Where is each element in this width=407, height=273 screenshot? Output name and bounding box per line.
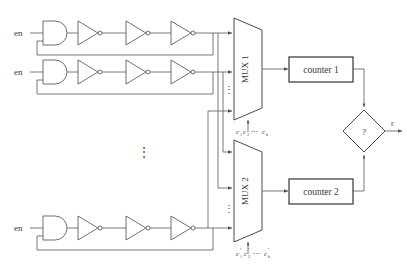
inverter-1-3 [171, 21, 191, 45]
mux1-sel-ck-sub: k [266, 132, 269, 137]
inverter-3-3 [171, 216, 191, 240]
ring-oscillator-1 [30, 21, 232, 188]
mux1-sel-dots-icon: ⋯ [251, 128, 258, 136]
inverter-bubble-1-1 [98, 31, 102, 35]
inverter-2-2 [126, 60, 146, 84]
inverter-bubble-3-1 [98, 226, 102, 230]
en-label-2: en [14, 67, 23, 77]
inverter-bubble-2-1 [98, 70, 102, 74]
mux-2-select-label: c 1 ′ c 2 ′ ⋯ c k ′ [236, 247, 271, 259]
inverter-bubble-3-3 [191, 226, 195, 230]
inverter-3-2 [126, 216, 146, 240]
en-label-1: en [14, 28, 23, 38]
comparator-output-label: r [391, 119, 394, 128]
counter-1-label: counter 1 [303, 65, 339, 75]
mux1-sel-c1-sub: 1 [240, 132, 242, 137]
oscillator-rows-ellipsis-icon: ⋮ [138, 145, 150, 159]
ring-oscillator-2 [30, 60, 232, 152]
mux-1-select-label: c 1 c 2 ⋯ c k [236, 128, 269, 137]
inverter-2-1 [78, 60, 98, 84]
mux1-sel-c2-sub: 2 [247, 132, 249, 137]
inverter-2-3 [171, 60, 191, 84]
inverter-1-2 [126, 21, 146, 45]
mux2-sel-ck-prime: ′ [268, 247, 270, 253]
mux2-sel-dots-icon: ⋯ [253, 250, 260, 258]
ring-oscillator-3 [30, 111, 232, 250]
inverter-bubble-2-3 [191, 70, 195, 74]
comparator-label: ? [362, 127, 366, 137]
inverter-bubble-2-2 [146, 70, 150, 74]
mux2-sel-ck-sub: k [268, 254, 271, 259]
mux2-sel-c1-prime: ′ [240, 247, 242, 253]
mux2-sel-c2-prime: ′ [248, 247, 250, 253]
inverter-1-1 [78, 21, 98, 45]
inverter-bubble-1-2 [146, 31, 150, 35]
mux1-inputs-ellipsis-icon: ⋮ [224, 84, 234, 95]
mux-1-label: MUX 1 [240, 55, 250, 83]
and-gate-1 [43, 21, 67, 45]
inverter-bubble-1-3 [191, 31, 195, 35]
counter-2-label: counter 2 [303, 187, 339, 197]
mux-2-label: MUX 2 [240, 177, 250, 205]
mux2-sel-c2-sub: 2 [248, 254, 250, 259]
mux2-sel-c1-sub: 1 [240, 254, 242, 259]
en-label-3: en [14, 223, 23, 233]
schematic-canvas: en en en ⋮ MUX 1 MUX 2 ⋮ ⋮ c 1 c 2 ⋯ c k… [0, 0, 407, 273]
schematic-svg: en en en ⋮ MUX 1 MUX 2 ⋮ ⋮ c 1 c 2 ⋯ c k… [0, 0, 407, 273]
and-gate-2 [43, 60, 67, 84]
inverter-3-1 [78, 216, 98, 240]
mux2-inputs-ellipsis-icon: ⋮ [224, 203, 234, 214]
and-gate-3 [43, 216, 67, 240]
inverter-bubble-3-2 [146, 226, 150, 230]
